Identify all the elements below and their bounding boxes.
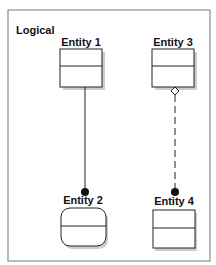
entity-3-label: Entity 3: [153, 36, 193, 48]
logical-diagram: Logical Entity 1 Entity 3 Entity 2: [0, 0, 216, 265]
entity-2-label: Entity 2: [63, 194, 103, 206]
frame-label: Logical: [16, 24, 55, 36]
entity-4[interactable]: Entity 4: [153, 195, 197, 251]
entity-2[interactable]: Entity 2: [61, 194, 108, 249]
entity-4-label: Entity 4: [154, 195, 195, 207]
entity-4-box: [153, 210, 195, 248]
entity-1[interactable]: Entity 1: [60, 36, 105, 90]
entity-2-box: [61, 208, 106, 246]
entity-1-box: [60, 49, 102, 87]
entity-3-box: [152, 49, 194, 87]
entity-3[interactable]: Entity 3: [152, 36, 197, 90]
entity-1-label: Entity 1: [61, 36, 101, 48]
